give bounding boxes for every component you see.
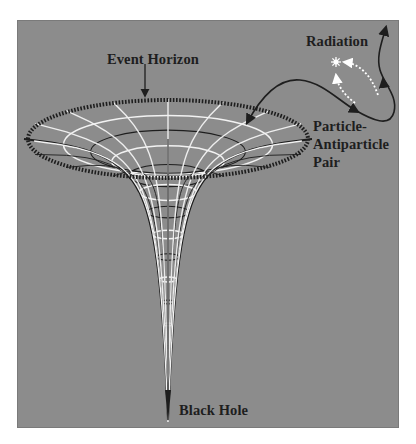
funnel-silhouette-highlight	[168, 141, 302, 422]
event-horizon-label: Event Horizon	[107, 51, 199, 67]
path-direction-arrow-2	[383, 79, 384, 86]
particle-pair-label-line1: Particle-	[313, 118, 367, 134]
particle-pair-label-line2: Antiparticle	[313, 136, 389, 152]
funnel-silhouette-highlight	[34, 141, 168, 422]
white-dotted-arrow-2	[344, 62, 378, 95]
funnel-meridian	[168, 154, 301, 415]
black-hole-funnel-diagram	[0, 0, 416, 444]
radiation-starburst-icon	[331, 57, 341, 67]
funnel-grid	[24, 99, 312, 422]
black-hole-label: Black Hole	[179, 402, 248, 418]
singularity-tip	[165, 390, 171, 422]
path-direction-arrow-1	[351, 108, 358, 112]
funnel-meridian	[35, 154, 168, 415]
radiation-label: Radiation	[306, 33, 368, 49]
particle-pair-label-line3: Pair	[313, 154, 340, 170]
